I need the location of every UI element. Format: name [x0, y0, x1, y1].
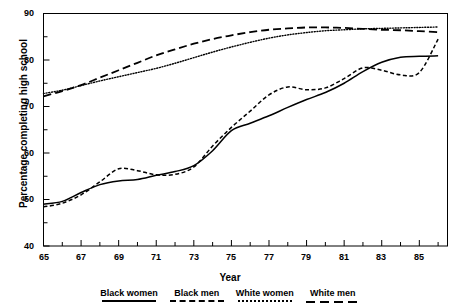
legend-entry-white-women[interactable]: White women — [236, 288, 294, 306]
legend-swatch-longdash — [306, 301, 360, 303]
y-tick-label-50: 50 — [8, 195, 34, 204]
series-line-white-women — [44, 27, 439, 93]
x-tick-label-77: 77 — [254, 253, 284, 262]
x-tick-label-85: 85 — [404, 253, 434, 262]
y-axis-label: Percentage completing high school — [18, 9, 29, 239]
x-tick-label-65: 65 — [29, 253, 59, 262]
plot-frame — [44, 14, 448, 247]
plot-border — [44, 14, 448, 247]
x-tick-label-73: 73 — [179, 253, 209, 262]
data-series-group — [44, 27, 439, 207]
legend-label: Black women — [100, 288, 158, 298]
legend-entry-black-women[interactable]: Black women — [100, 288, 158, 306]
legend-entry-black-men[interactable]: Black men — [170, 288, 224, 306]
chart-legend: Black womenBlack menWhite womenWhite men — [0, 288, 460, 306]
x-tick-label-69: 69 — [104, 253, 134, 262]
chart-figure: Percentage completing high school Year 9… — [0, 0, 460, 308]
y-tick-label-60: 60 — [8, 149, 34, 158]
y-tick-label-40: 40 — [8, 242, 34, 251]
series-line-black-women — [44, 56, 439, 204]
legend-label: White men — [310, 288, 356, 298]
y-tick-label-80: 80 — [8, 56, 34, 65]
y-tick-label-70: 70 — [8, 102, 34, 111]
figure-title — [0, 0, 460, 3]
legend-label: White women — [236, 288, 294, 298]
x-tick-label-67: 67 — [66, 253, 96, 262]
x-tick-label-83: 83 — [366, 253, 396, 262]
series-line-white-men — [44, 27, 439, 96]
legend-entry-white-men[interactable]: White men — [306, 288, 360, 303]
legend-swatch-dash — [170, 300, 224, 306]
x-tick-label-81: 81 — [329, 253, 359, 262]
legend-swatch-solid — [102, 300, 156, 306]
legend-label: Black men — [174, 288, 219, 298]
x-tick-label-75: 75 — [216, 253, 246, 262]
x-tick-label-79: 79 — [291, 253, 321, 262]
legend-swatch-dot — [238, 300, 292, 306]
x-tick-label-71: 71 — [141, 253, 171, 262]
x-axis-label: Year — [0, 272, 460, 283]
y-tick-label-90: 90 — [8, 9, 34, 18]
x-tick-marks — [44, 240, 439, 246]
y-tick-marks — [44, 14, 50, 247]
